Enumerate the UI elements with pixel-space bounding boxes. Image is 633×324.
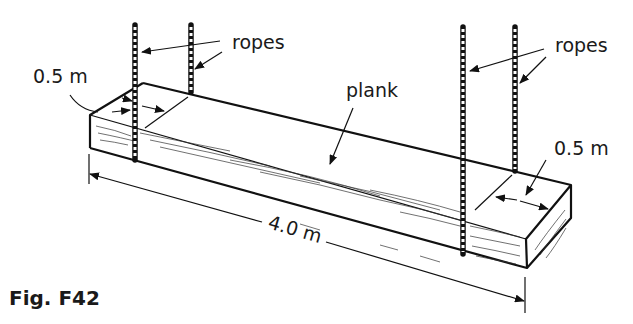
label-plank: plank (346, 79, 398, 101)
arrow-ropes-right-2 (520, 57, 546, 83)
label-dim-right-end: 0.5 m (554, 137, 609, 159)
plank-swing-diagram: ropes ropes plank 0.5 m 0.5 m 4.0 m Fig.… (0, 0, 633, 324)
label-ropes-right: ropes (555, 34, 608, 56)
figure-caption: Fig. F42 (9, 286, 100, 310)
arrow-ropes-right-1 (470, 49, 544, 71)
leader-dim-left-end (70, 95, 98, 112)
arrow-ropes-left-1 (142, 41, 220, 52)
label-dim-length: 4.0 m (266, 211, 325, 247)
label-dim-left-end: 0.5 m (33, 65, 88, 87)
label-ropes-left: ropes (232, 31, 285, 53)
arrow-ropes-left-2 (195, 52, 222, 69)
